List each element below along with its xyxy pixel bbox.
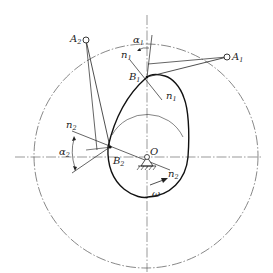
follower-arm-A2 (86, 40, 110, 147)
label-n1-top: n1 (121, 49, 132, 62)
base-circle-arc (112, 114, 183, 137)
follower-arm-A1 (147, 57, 227, 77)
contact-point-B1-icon (146, 76, 149, 79)
label-A1: A1 (231, 51, 243, 64)
pivot-A1-icon (224, 54, 230, 60)
cam-diagram: A2 A1 B1 B2 O n1 n1 n2 n2 α1 α2 ω (0, 0, 273, 273)
alpha1-arrow-icon (137, 48, 141, 51)
label-A2: A2 (69, 33, 81, 46)
label-n1-bottom: n1 (166, 90, 177, 103)
omega-arrowhead-icon (161, 178, 168, 183)
label-B1: B1 (128, 71, 141, 84)
contact-point-B2-icon (109, 146, 112, 149)
velocity-direction-B1 (147, 35, 152, 77)
label-omega: ω (152, 188, 160, 199)
diagram-svg: A2 A1 B1 B2 O n1 n1 n2 n2 α1 α2 ω (0, 0, 273, 273)
velocity-direction-B2 (72, 147, 110, 173)
alpha2-arrow-top-icon (72, 136, 76, 141)
label-B2: B2 (112, 155, 125, 168)
velocity-line-A2 (86, 40, 97, 150)
label-n2-right: n2 (168, 168, 179, 181)
alpha2-arc (72, 139, 75, 168)
label-O: O (150, 146, 158, 157)
label-n2-left: n2 (66, 119, 77, 132)
label-alpha1: α1 (133, 34, 144, 47)
pivot-A2-icon (83, 37, 89, 43)
velocity-line-A1 (148, 57, 227, 64)
